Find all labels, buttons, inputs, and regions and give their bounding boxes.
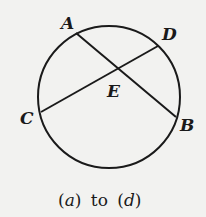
caption-paren: ) bbox=[135, 190, 142, 210]
caption-paren: ( bbox=[58, 190, 65, 210]
point-label-b: B bbox=[179, 115, 194, 135]
chord-cd bbox=[41, 46, 158, 112]
caption-end: d bbox=[124, 190, 135, 210]
chord-ab bbox=[76, 33, 176, 117]
point-label-c: C bbox=[20, 108, 34, 128]
caption-paren: ( bbox=[117, 190, 124, 210]
point-label-e: E bbox=[106, 81, 121, 101]
circle-diagram: A D C B E (a) to (d) bbox=[0, 0, 206, 217]
caption-start: a bbox=[65, 190, 75, 210]
caption-to: to bbox=[91, 190, 108, 210]
caption-paren: ) bbox=[75, 190, 82, 210]
chord-diagram-figure: A D C B E (a) to (d) bbox=[0, 0, 206, 217]
figure-caption: (a) to (d) bbox=[58, 190, 141, 210]
point-label-a: A bbox=[59, 13, 74, 33]
point-label-d: D bbox=[161, 24, 177, 44]
